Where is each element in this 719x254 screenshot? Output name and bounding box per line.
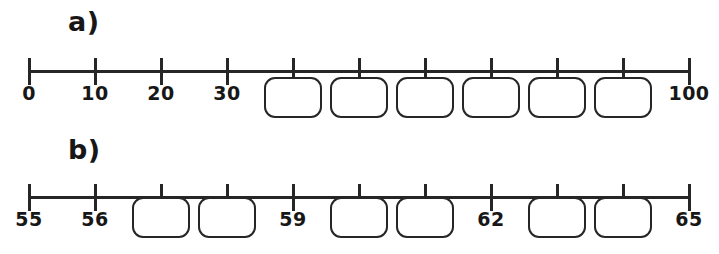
part-label-b: b) [68, 136, 101, 163]
answer-box[interactable] [528, 197, 586, 238]
answer-box[interactable] [330, 197, 388, 238]
axis-tick-label: 56 [81, 210, 108, 229]
axis-tick-label: 59 [279, 210, 306, 229]
answer-box[interactable] [396, 77, 454, 118]
answer-box[interactable] [594, 197, 652, 238]
axis-tick-label: 10 [81, 84, 108, 103]
axis-tick [28, 58, 31, 85]
answer-box[interactable] [132, 197, 190, 238]
axis-tick [292, 184, 295, 211]
answer-box[interactable] [462, 77, 520, 118]
axis-tick-label: 0 [22, 84, 36, 103]
axis-tick [94, 184, 97, 211]
answer-box[interactable] [330, 77, 388, 118]
axis-tick [226, 58, 229, 85]
axis-tick-label: 55 [15, 210, 42, 229]
answer-box[interactable] [198, 197, 256, 238]
number-line-row-a: a) 0102030100 [0, 0, 719, 128]
axis-tick-label: 100 [668, 84, 709, 103]
answer-box[interactable] [594, 77, 652, 118]
axis-tick-label: 65 [675, 210, 702, 229]
axis-tick [688, 58, 691, 85]
axis-tick [160, 58, 163, 85]
axis-tick [688, 184, 691, 211]
answer-box[interactable] [528, 77, 586, 118]
axis-tick [94, 58, 97, 85]
axis-tick-label: 20 [147, 84, 174, 103]
answer-box[interactable] [264, 77, 322, 118]
number-line-worksheet: a) 0102030100 b) 5556596265 [0, 0, 719, 254]
part-label-a: a) [68, 8, 100, 35]
axis-tick-label: 30 [213, 84, 240, 103]
axis-tick-label: 62 [477, 210, 504, 229]
axis-tick [28, 184, 31, 211]
axis-tick [490, 184, 493, 211]
number-line-row-b: b) 5556596265 [0, 128, 719, 254]
answer-box[interactable] [396, 197, 454, 238]
